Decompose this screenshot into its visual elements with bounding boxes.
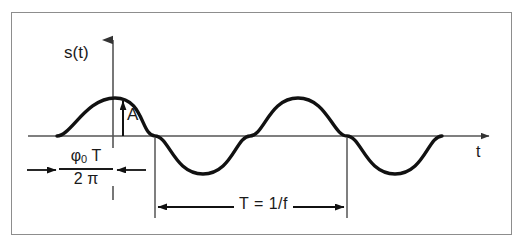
x-axis-label: t <box>476 144 480 160</box>
sine-wave-figure: s(t) t A T = 1/f φ0 T 2 π <box>0 0 526 249</box>
phase-offset-label: φ0 T 2 π <box>58 148 114 186</box>
amplitude-label: A <box>127 106 138 123</box>
phi-symbol: φ <box>71 147 81 164</box>
phase-numerator-period: T <box>87 147 101 164</box>
phase-numerator: φ0 T <box>58 148 114 168</box>
period-label: T = 1/f <box>234 196 293 212</box>
y-axis-label: s(t) <box>64 44 89 61</box>
phase-denominator: 2 π <box>58 170 114 186</box>
